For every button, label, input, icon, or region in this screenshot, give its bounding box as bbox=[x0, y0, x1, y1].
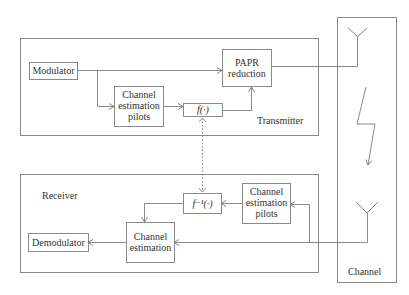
receiver-label: Receiver bbox=[42, 190, 78, 201]
rx-antenna-icon bbox=[356, 202, 378, 213]
f-inverse-to-channel-estimation-line bbox=[145, 204, 184, 223]
f-to-papr-line bbox=[223, 87, 252, 111]
rx-pilots-line-2: estimation bbox=[242, 197, 291, 208]
channel-estimation-line-2: estimation bbox=[126, 242, 175, 253]
tx-pilots-label: Channel estimation pilots bbox=[114, 89, 164, 122]
channel-estimation-label: Channel estimation bbox=[126, 231, 175, 253]
rx-pilots-line-1: Channel bbox=[242, 186, 291, 197]
tx-antenna-icon bbox=[348, 28, 367, 37]
papr-label: PAPR reduction bbox=[222, 57, 272, 79]
tx-pilots-line-1: Channel bbox=[114, 89, 164, 100]
tx-pilots-line-2: estimation bbox=[114, 100, 164, 111]
channel-lightning-icon bbox=[357, 87, 375, 165]
diagram-canvas bbox=[0, 0, 409, 295]
rx-pilots-line-3: pilots bbox=[242, 208, 291, 219]
modulator-label: Modulator bbox=[29, 65, 78, 76]
dotted-link-arrowhead-top bbox=[199, 118, 206, 122]
modulator-to-pilots-line bbox=[98, 71, 115, 107]
antenna-to-rx-pilots-line bbox=[290, 205, 310, 243]
papr-line-2: reduction bbox=[222, 68, 272, 79]
transmitter-label: Transmitter bbox=[257, 115, 303, 126]
tx-pilots-line-3: pilots bbox=[114, 111, 164, 122]
f-inverse-label: f⁻¹(·) bbox=[183, 198, 222, 209]
papr-to-antenna-line bbox=[272, 36, 358, 67]
demodulator-label: Demodulator bbox=[28, 237, 89, 248]
rx-pilots-label: Channel estimation pilots bbox=[242, 186, 291, 219]
papr-line-1: PAPR bbox=[222, 57, 272, 68]
f-label: f(·) bbox=[183, 104, 223, 115]
channel-estimation-line-1: Channel bbox=[126, 231, 175, 242]
channel-label: Channel bbox=[348, 266, 381, 277]
